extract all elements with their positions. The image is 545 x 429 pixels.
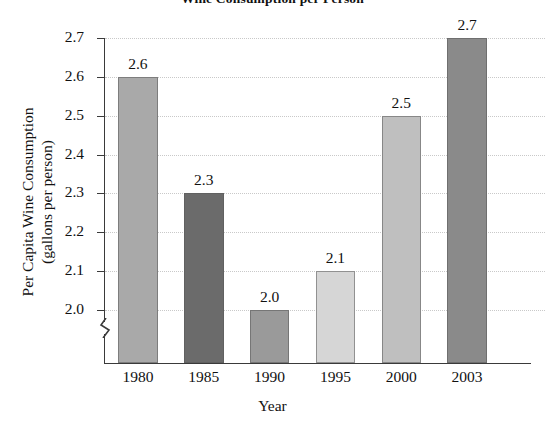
x-axis-tick-label: 2000 bbox=[368, 368, 434, 386]
bar[interactable] bbox=[250, 310, 290, 363]
bar[interactable] bbox=[447, 38, 487, 363]
bar-slot: 2.5 bbox=[382, 38, 422, 363]
y-axis-tick-label: 2.4 bbox=[40, 145, 84, 163]
bar-value-label: 2.5 bbox=[368, 94, 436, 112]
bar[interactable] bbox=[382, 116, 422, 363]
x-axis-title: Year bbox=[0, 397, 545, 415]
y-axis-tick-label: 2.3 bbox=[40, 183, 84, 201]
bar-slot: 2.7 bbox=[447, 38, 487, 363]
bar-value-label: 2.7 bbox=[433, 16, 501, 34]
y-axis-tick-label: 2.2 bbox=[40, 222, 84, 240]
y-axis-tick-label: 2.0 bbox=[40, 300, 84, 318]
x-axis-tick-label: 1980 bbox=[105, 368, 171, 386]
chart-title: Wine Consumption per Person bbox=[0, 0, 545, 7]
bar-slot: 2.6 bbox=[118, 38, 158, 363]
x-axis-tick-label: 1995 bbox=[303, 368, 369, 386]
y-axis-tick-label: 2.5 bbox=[40, 106, 84, 124]
bar[interactable] bbox=[316, 271, 356, 363]
bar[interactable] bbox=[184, 193, 224, 363]
bar-slot: 2.3 bbox=[184, 38, 224, 363]
x-axis-tick-label: 2003 bbox=[434, 368, 500, 386]
y-axis-tick-label: 2.7 bbox=[40, 28, 84, 46]
bar[interactable] bbox=[118, 77, 158, 363]
y-axis-title-line1: Per Capita Wine Consumption bbox=[19, 108, 36, 297]
bar-value-label: 2.1 bbox=[302, 249, 370, 267]
y-axis-tick-label: 2.6 bbox=[40, 67, 84, 85]
bar-value-label: 2.6 bbox=[104, 55, 172, 73]
x-axis-tick-label: 1990 bbox=[237, 368, 303, 386]
bar-slot: 2.0 bbox=[250, 38, 290, 363]
bar-value-label: 2.0 bbox=[236, 288, 304, 306]
bar-value-label: 2.3 bbox=[170, 171, 238, 189]
x-axis-line bbox=[104, 363, 531, 364]
x-axis-tick-label: 1985 bbox=[171, 368, 237, 386]
bar-slot: 2.1 bbox=[316, 38, 356, 363]
bar-chart: Wine Consumption per Person Per Capita W… bbox=[0, 0, 545, 429]
y-axis-tick-label: 2.1 bbox=[40, 261, 84, 279]
bar-series: 2.62.32.02.12.52.7 bbox=[105, 38, 500, 363]
